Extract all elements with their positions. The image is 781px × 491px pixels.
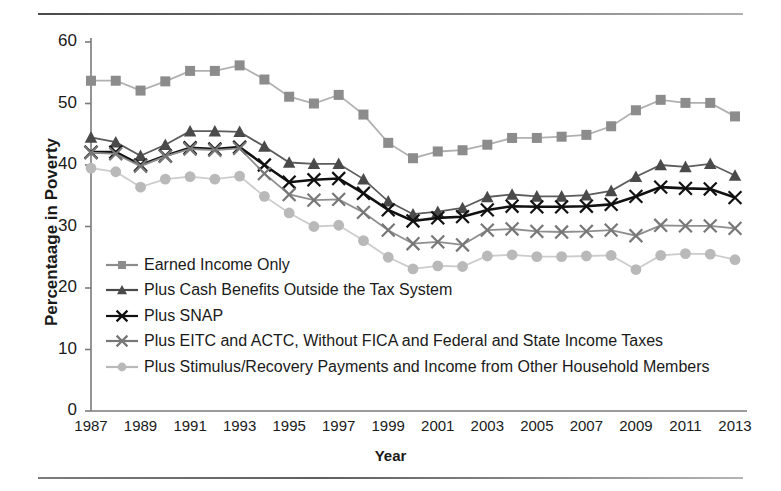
x-marker <box>104 332 140 350</box>
legend-item-label: Earned Income Only <box>144 256 290 274</box>
legend-item-2[interactable]: Plus SNAP <box>104 303 710 329</box>
legend-item-label: Plus EITC and ACTC, Without FICA and Fed… <box>144 332 663 350</box>
y-tick-label: 40 <box>37 154 77 174</box>
x-tick-label: 2013 <box>705 417 765 434</box>
y-tick-label: 10 <box>37 339 77 359</box>
square-marker <box>104 256 140 274</box>
y-tick-label: 60 <box>37 31 77 51</box>
y-tick-label: 50 <box>37 93 77 113</box>
y-tick-label: 30 <box>37 216 77 236</box>
y-tick-label: 20 <box>37 277 77 297</box>
series-1 <box>85 125 742 220</box>
legend-item-3[interactable]: Plus EITC and ACTC, Without FICA and Fed… <box>104 329 710 355</box>
legend-item-label: Plus Stimulus/Recovery Payments and Inco… <box>144 358 710 376</box>
legend-item-1[interactable]: Plus Cash Benefits Outside the Tax Syste… <box>104 278 710 304</box>
legend-item-4[interactable]: Plus Stimulus/Recovery Payments and Inco… <box>104 354 710 380</box>
series-0 <box>86 60 740 163</box>
legend-item-label: Plus SNAP <box>144 307 223 325</box>
circle-marker <box>104 358 140 376</box>
data-series-group <box>85 60 742 275</box>
chart-figure: Percentaage in Poverty Year 605040302010… <box>0 0 781 491</box>
legend-item-0[interactable]: Earned Income Only <box>104 252 710 278</box>
triangle-marker <box>104 281 140 299</box>
legend-item-label: Plus Cash Benefits Outside the Tax Syste… <box>144 281 452 299</box>
x-marker <box>104 307 140 325</box>
chart-legend: Earned Income OnlyPlus Cash Benefits Out… <box>104 252 710 380</box>
x-axis-title: Year <box>0 447 781 464</box>
